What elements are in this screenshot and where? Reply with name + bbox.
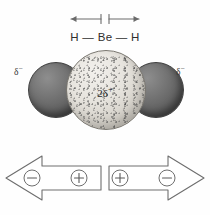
bond-dipole-arrow-left [71,15,101,24]
molecular-formula: H — Be — H [70,31,139,43]
partial-charge-label-center: 2δ+ [0,84,210,99]
dipole-vector-diagram [0,146,210,210]
dipole-vector-svg [0,146,210,210]
bond-dipole-arrow-right [109,15,139,24]
space-filling-model: δ− δ− 2δ+ [0,46,210,141]
center-delta-sign: + [108,84,113,94]
partial-charge-label-left: δ− [14,64,23,77]
partial-charge-label-right: δ− [176,64,185,77]
bond-dipole-arrows [0,11,210,27]
beh2-dipole-figure: H — Be — H δ− δ− 2δ+ [0,0,210,215]
center-delta-symbol: 2δ [97,87,108,99]
bond-dipole-arrows-svg [0,11,210,27]
molecular-formula-row: H — Be — H [0,27,210,45]
delta-sign-left: − [18,64,22,73]
delta-sign-right: − [180,64,184,73]
